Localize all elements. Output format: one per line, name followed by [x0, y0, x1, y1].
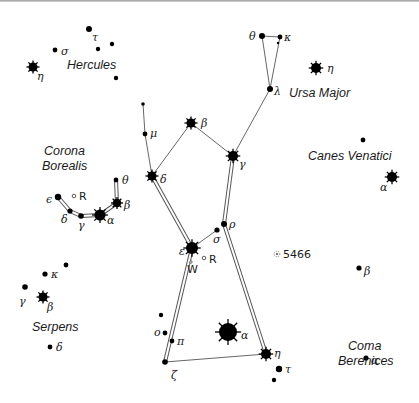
- star-dot-icon: [42, 271, 47, 276]
- star-dot-icon: [67, 208, 72, 213]
- star-dot-icon: [95, 210, 106, 221]
- constellation-label: Ursa Major: [289, 86, 351, 100]
- star-dot-icon: [214, 227, 219, 232]
- constellation-label: Hercules: [67, 58, 116, 72]
- star-dot-icon: [114, 178, 119, 183]
- star-her-b: [110, 42, 114, 46]
- star-ser-beta: β: [36, 290, 53, 314]
- constellation-labels: HerculesUrsa MajorCoronaBorealisCanes Ve…: [32, 58, 394, 368]
- star-ser-gamma: γ: [19, 284, 28, 308]
- constellation-label: Serpens: [32, 320, 79, 334]
- star-her-sigma: σ: [53, 45, 69, 58]
- star-label: θ: [249, 30, 256, 43]
- star-com-beta: β: [356, 265, 370, 278]
- star-chart: τσηθκλημβγδρσεοπζαητθβαγδϵαβακγβδ RRW546…: [0, 0, 419, 403]
- star-crb-delta: δ: [61, 208, 73, 226]
- star-dot-icon: [361, 138, 366, 143]
- star-label: γ: [19, 295, 26, 308]
- star-label: ζ: [171, 369, 178, 382]
- star-dot-icon: [387, 172, 397, 182]
- star-her-c: [114, 76, 118, 80]
- star-ser-delta: δ: [48, 341, 63, 354]
- star-boo-upsilon: [272, 378, 276, 382]
- star-boo-tau: τ: [276, 363, 292, 376]
- star-her-a: [96, 47, 100, 51]
- constellation-line: [145, 134, 152, 176]
- star-label: μ: [150, 127, 157, 140]
- star-ser-kappa: κ: [42, 268, 59, 281]
- star-label: κ: [283, 31, 292, 44]
- star-dot-icon: [78, 213, 84, 219]
- variable-star-label: R: [209, 253, 217, 266]
- star-dot-icon: [143, 132, 148, 137]
- star-ser-a: [64, 263, 69, 268]
- star-dot-icon: [259, 33, 265, 39]
- deep-sky-label: 5466: [283, 248, 311, 261]
- star-dot-icon: [113, 199, 121, 207]
- star-dot-icon: [219, 323, 237, 341]
- star-dot-icon: [187, 119, 196, 128]
- variable-star-icon: [202, 256, 206, 260]
- star-label: δ: [61, 213, 68, 226]
- star-label: θ: [122, 174, 129, 187]
- constellation-line: [262, 36, 270, 89]
- star-uma-lambda: λ: [267, 85, 281, 98]
- constellation-line: [191, 123, 233, 156]
- constellation-label: Borealis: [42, 159, 87, 173]
- star-uma-eta: η: [309, 61, 334, 76]
- constellation-label: Corona: [44, 144, 85, 158]
- star-dot-icon: [162, 359, 168, 365]
- star-dot-icon: [272, 378, 276, 382]
- star-dot-icon: [55, 194, 61, 200]
- constellation-line-inner: [224, 156, 233, 224]
- star-dot-icon: [159, 313, 163, 317]
- constellation-line: [270, 37, 280, 89]
- variable-star-icon: [72, 194, 76, 198]
- cluster-core-icon: [276, 253, 278, 255]
- star-label: β: [123, 199, 130, 212]
- star-dot-icon: [110, 42, 114, 46]
- star-label: ρ: [228, 218, 236, 231]
- star-dot-icon: [96, 47, 100, 51]
- variable-star-label: R: [79, 190, 87, 203]
- star-label: τ: [92, 31, 99, 44]
- star-her-eta: η: [26, 60, 44, 83]
- star-label: γ: [239, 158, 246, 171]
- star-label: ο: [154, 326, 161, 339]
- star-dot-icon: [267, 86, 273, 92]
- constellation-line: [143, 104, 145, 134]
- star-label: β: [363, 265, 370, 278]
- star-dot-icon: [148, 172, 157, 181]
- star-label: κ: [50, 268, 59, 281]
- star-cvn-alpha: α: [380, 170, 399, 194]
- star-boo-zeta: ζ: [162, 359, 178, 382]
- star-dot-icon: [356, 265, 361, 270]
- variable-star-icon: [190, 261, 192, 263]
- star-label: τ: [285, 363, 292, 376]
- star-dot-icon: [163, 331, 168, 336]
- star-uma-kappa: κ: [278, 31, 292, 44]
- star-dot-icon: [22, 284, 28, 290]
- star-dot-icon: [278, 35, 283, 40]
- star-dot-icon: [311, 63, 321, 73]
- star-crb-beta: β: [111, 197, 130, 212]
- star-label: σ: [213, 233, 221, 246]
- star-dot-icon: [64, 263, 69, 268]
- star-dot-icon: [276, 366, 282, 372]
- star-dot-icon: [114, 76, 118, 80]
- star-boo-x: [159, 313, 163, 317]
- star-boo-top: [141, 102, 145, 106]
- star-dot-icon: [48, 345, 53, 350]
- star-label: δ: [56, 341, 63, 354]
- star-boo-beta: β: [184, 116, 207, 130]
- star-crb-alpha: α: [92, 207, 115, 227]
- star-dot-icon: [141, 102, 145, 106]
- constellation-label: Canes Venatici: [308, 149, 393, 163]
- star-dot-icon: [277, 42, 279, 44]
- star-cvn-top: [361, 138, 366, 143]
- star-boo-eta: η: [259, 347, 281, 362]
- constellation-line-inner: [152, 176, 192, 248]
- star-label: δ: [160, 173, 167, 186]
- star-dot-icon: [170, 339, 175, 344]
- star-label: ε: [179, 245, 185, 258]
